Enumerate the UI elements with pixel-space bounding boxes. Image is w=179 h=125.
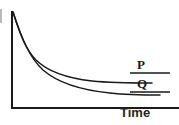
x-axis-title: Time (120, 106, 150, 120)
decay-curves-plot (0, 0, 179, 125)
series-label-q: Q (137, 77, 147, 90)
chart-figure: P Q Time (0, 0, 179, 125)
series-label-p: P (137, 58, 145, 71)
